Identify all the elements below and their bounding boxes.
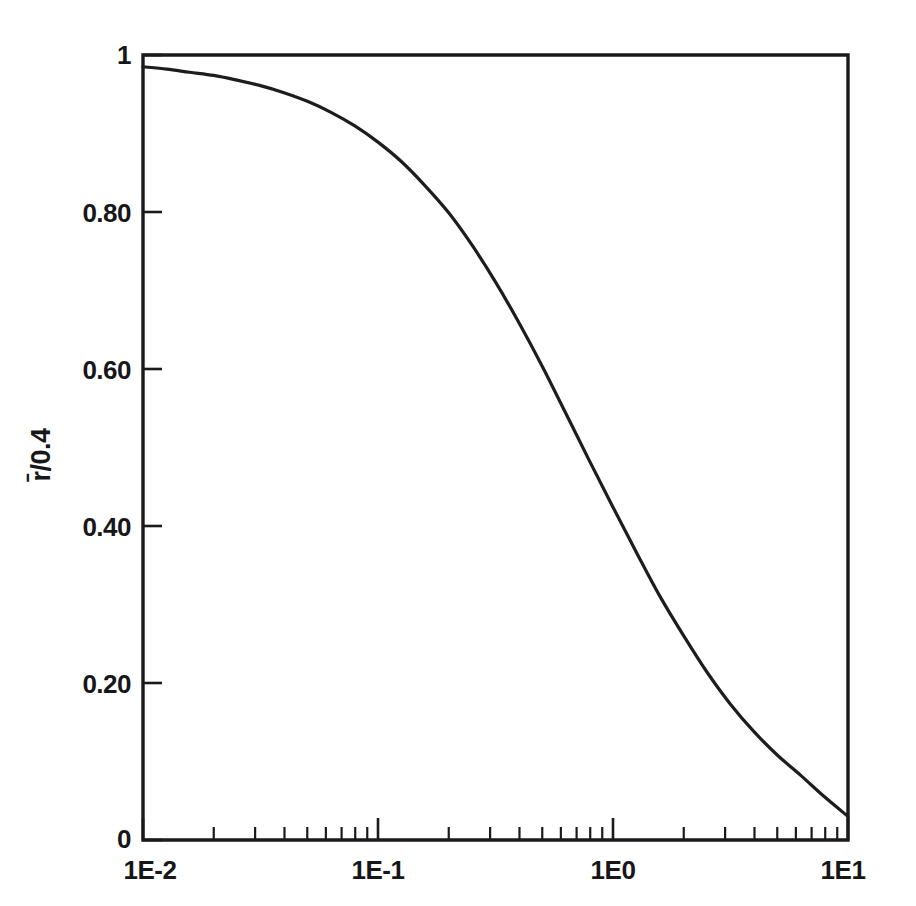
x-tick-label-1e1: 1E1 — [821, 855, 866, 885]
curve-r-over-0p4 — [143, 67, 848, 817]
y-tick-label-0-80: 0.80 — [82, 198, 131, 228]
y-axis-title-group: r̄/0.4 — [26, 428, 56, 483]
x-tick-labels: 1E-2 1E-1 1E0 1E1 — [124, 855, 866, 885]
y-tick-label-1: 1 — [117, 40, 131, 70]
y-tick-label-0-60: 0.60 — [82, 355, 131, 385]
y-tick-label-0: 0 — [117, 824, 131, 854]
y-axis-ticks — [143, 55, 162, 840]
y-tick-label-0-20: 0.20 — [82, 669, 131, 699]
figure-canvas: 1 0.80 0.60 0.40 0.20 0 1E-2 1E-1 1E0 1E… — [0, 0, 916, 906]
y-axis-title: r̄/0.4 — [26, 428, 56, 483]
x-axis-minor-ticks — [214, 827, 838, 840]
x-tick-label-1e-2: 1E-2 — [124, 855, 177, 885]
x-tick-label-1e0: 1E0 — [591, 855, 636, 885]
x-axis-major-ticks — [143, 818, 848, 840]
y-tick-label-0-40: 0.40 — [82, 512, 131, 542]
data-series-group — [143, 67, 848, 817]
y-tick-labels: 1 0.80 0.60 0.40 0.20 0 — [82, 40, 131, 854]
x-tick-label-1e-1: 1E-1 — [352, 855, 405, 885]
chart-svg: 1 0.80 0.60 0.40 0.20 0 1E-2 1E-1 1E0 1E… — [0, 0, 916, 906]
plot-frame — [143, 55, 848, 840]
axes-rectangle — [143, 55, 848, 840]
